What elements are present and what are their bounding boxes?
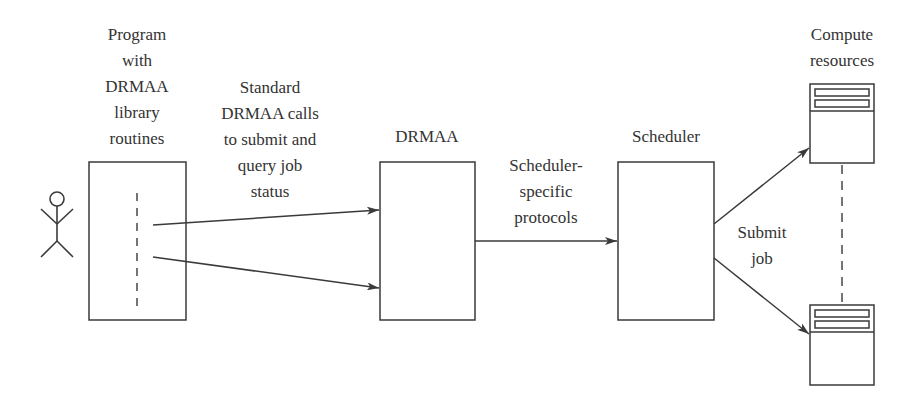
protocols-label-line: Scheduler- [486, 153, 606, 179]
server-icon [810, 84, 874, 163]
drmaa-box [380, 162, 475, 320]
program-label-line: library [77, 100, 197, 126]
drmaa-calls-label-line: DRMAA calls [205, 101, 335, 127]
query-call-arrow [153, 257, 379, 288]
submit-job-label: Submit job [722, 220, 802, 272]
drmaa-label-text: DRMAA [367, 124, 487, 150]
stick-figure-icon [41, 192, 73, 257]
protocols-label: Scheduler- specific protocols [486, 153, 606, 231]
compute-label-line: resources [792, 48, 892, 74]
compute-resources-label: Compute resources [792, 22, 892, 74]
program-label: Program with DRMAA library routines [77, 22, 197, 152]
drmaa-label: DRMAA [367, 124, 487, 150]
scheduler-label-text: Scheduler [606, 124, 726, 150]
drmaa-calls-label-line: Standard [205, 75, 335, 101]
protocols-label-line: specific [486, 179, 606, 205]
submit-job-label-line: Submit [722, 220, 802, 246]
program-label-line: with [77, 48, 197, 74]
protocols-label-line: protocols [486, 205, 606, 231]
drmaa-calls-label: Standard DRMAA calls to submit and query… [205, 75, 335, 205]
submit-call-arrow [153, 210, 379, 225]
program-label-line: routines [77, 126, 197, 152]
server-icon [810, 305, 874, 385]
program-label-line: DRMAA [77, 74, 197, 100]
scheduler-box [618, 162, 714, 320]
compute-label-line: Compute [792, 22, 892, 48]
drmaa-calls-label-line: to submit and [205, 127, 335, 153]
scheduler-label: Scheduler [606, 124, 726, 150]
submit-job-label-line: job [722, 246, 802, 272]
program-label-line: Program [77, 22, 197, 48]
drmaa-calls-label-line: status [205, 179, 335, 205]
drmaa-calls-label-line: query job [205, 153, 335, 179]
submit-job-arrow-top [714, 148, 809, 224]
